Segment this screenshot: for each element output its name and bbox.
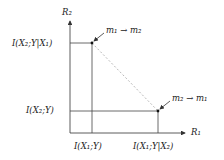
x-tick-label-left: I(X₁;Y) (74, 142, 102, 151)
point-label-m1-m2: m₁ → m₂ (106, 26, 141, 35)
x-tick-label-right: I(X₁;Y|X₂) (133, 142, 173, 151)
corner-point-m2-m1 (157, 110, 160, 113)
y-tick-label-upper: I(X₂;Y|X₁) (12, 39, 52, 48)
point-label-m2-m1: m₂ → m₁ (172, 94, 207, 103)
y-tick-label-lower: I(X₂;Y) (26, 106, 54, 115)
pointer-arrow-m2-m1 (160, 101, 170, 109)
x-axis-label: R₁ (191, 128, 201, 137)
time-sharing-dashed-line (92, 43, 158, 111)
corner-point-m1-m2 (91, 42, 94, 45)
rate-region-diagram: R₂ R₁ I(X₂;Y|X₁) I(X₂;Y) I(X₁;Y) I(X₁;Y|… (0, 0, 224, 160)
pointer-arrow-m1-m2 (94, 33, 104, 41)
y-axis-label: R₂ (62, 8, 72, 17)
